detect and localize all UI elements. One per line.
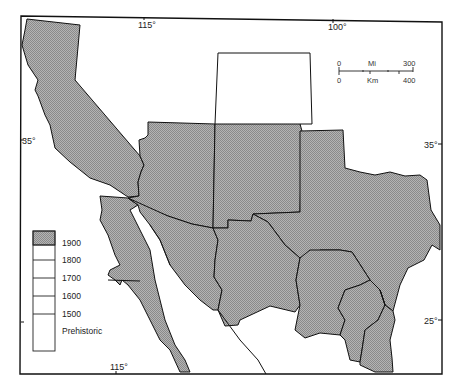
legend-label-1900: 1900 bbox=[62, 239, 81, 248]
scale-miles-label: Mi bbox=[368, 60, 376, 68]
scale-miles-end: 300 bbox=[403, 60, 416, 68]
legend-label-1600: 1600 bbox=[62, 292, 81, 301]
scale-km-start: 0 bbox=[337, 77, 341, 85]
region-colorado bbox=[213, 53, 312, 131]
legend-label-1700: 1700 bbox=[62, 274, 81, 283]
scale-bar bbox=[339, 67, 413, 75]
legend-box bbox=[33, 231, 55, 351]
graticule-label-left-35: 35° bbox=[22, 137, 36, 146]
graticule-label-top-100: 100° bbox=[328, 23, 347, 32]
scale-km-end: 400 bbox=[403, 77, 416, 85]
legend-label-1500: 1500 bbox=[62, 310, 81, 319]
scale-miles-start: 0 bbox=[337, 60, 341, 68]
region-california bbox=[22, 19, 144, 197]
graticule-label-bottom-115: 115° bbox=[110, 363, 128, 372]
graticule-label-right-35: 35° bbox=[424, 141, 438, 150]
graticule-label-top-115: 115° bbox=[138, 21, 156, 30]
scale-km-label: Km bbox=[367, 77, 378, 85]
legend-label-1800: 1800 bbox=[62, 256, 81, 265]
legend-label-prehistoric: Prehistoric bbox=[62, 327, 102, 336]
graticule-label-right-25: 25° bbox=[424, 317, 438, 326]
